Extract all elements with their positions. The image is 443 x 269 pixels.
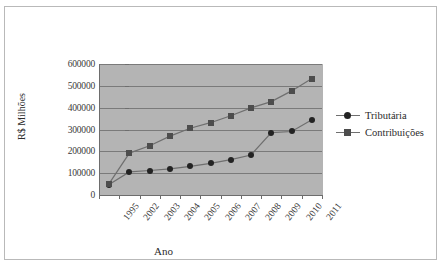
data-point — [228, 157, 234, 163]
data-point — [167, 166, 173, 172]
legend-item-2[interactable]: Contribuições — [336, 124, 424, 141]
series-line-2 — [109, 79, 312, 184]
data-point — [268, 99, 274, 105]
data-point — [309, 117, 315, 123]
data-point — [147, 168, 153, 174]
data-point — [289, 88, 295, 94]
data-point — [126, 150, 132, 156]
data-point — [187, 125, 193, 131]
data-point — [167, 133, 173, 139]
legend-label: Tributária — [365, 110, 407, 121]
legend-square-marker-icon — [336, 127, 360, 139]
data-point — [309, 76, 315, 82]
data-point — [268, 130, 274, 136]
chart-legend: TributáriaContribuições — [336, 107, 424, 141]
data-point — [208, 160, 214, 166]
data-point — [147, 143, 153, 149]
data-point — [248, 105, 254, 111]
chart-canvas: 6000005000004000003000002000001000000 R$… — [5, 7, 436, 259]
legend-item-1[interactable]: Tributária — [336, 107, 424, 124]
legend-circle-marker-icon — [336, 110, 360, 122]
data-point — [106, 181, 112, 187]
data-point — [228, 113, 234, 119]
chart-frame: 6000005000004000003000002000001000000 R$… — [4, 6, 437, 260]
series-line-1 — [109, 120, 312, 185]
legend-label: Contribuições — [365, 127, 424, 138]
data-point — [208, 120, 214, 126]
